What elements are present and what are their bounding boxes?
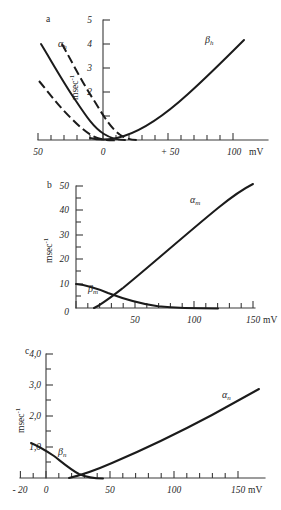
panel-c-label-alpha-n: αn bbox=[222, 389, 231, 402]
panel-b-y-ticklabel-20: 20 bbox=[60, 254, 70, 264]
panel-a-label-beta-h: βh bbox=[204, 34, 214, 47]
panel-a-x-ticklabel-neg50: 50 bbox=[33, 147, 43, 157]
panel-b-y-ticklabel-10: 10 bbox=[60, 279, 70, 289]
panel-c-x-ticklabel-50: 50 bbox=[105, 485, 115, 495]
panel-a-letter: a bbox=[46, 14, 51, 24]
panel-c-y-ticklabel-3: 3,0 bbox=[28, 380, 41, 390]
panel-a-x-ticklabel-50: + 50 bbox=[161, 147, 180, 157]
panel-b-y-unit-exp: -1 bbox=[42, 237, 50, 243]
panel-c-y-axis-title: msec-1 bbox=[14, 407, 26, 433]
panel-a: a 5 4 3 2 msec-1 bbox=[0, 0, 281, 168]
panel-a-curve-alpha-h bbox=[41, 44, 125, 140]
panel-b-x-ticklabel-150: 150 bbox=[246, 315, 261, 325]
panel-b-y-unit: msec bbox=[44, 243, 54, 263]
svg-text:msec-1: msec-1 bbox=[68, 74, 80, 100]
panel-b-x-ticklabel-100: 100 bbox=[187, 315, 202, 325]
panel-b-y-ticklabel-30: 30 bbox=[59, 230, 70, 240]
panel-c-x-ticklabel-neg20: - 20 bbox=[12, 485, 27, 495]
svg-text:msec-1: msec-1 bbox=[14, 407, 26, 433]
panel-c-x-unit: mV bbox=[248, 485, 262, 495]
panel-c-label-beta-n: βn bbox=[57, 446, 67, 459]
panel-a-curve-beta-h bbox=[90, 40, 244, 140]
panel-a-x-ticklabel-100: 100 bbox=[227, 147, 242, 157]
panel-b-label-beta-m: βm bbox=[87, 283, 98, 296]
panel-b-label-alpha-m: αm bbox=[190, 194, 200, 207]
panel-a-y-ticklabel-5: 5 bbox=[87, 15, 92, 25]
panel-b-y-axis-title: msec-1 bbox=[42, 237, 54, 263]
panel-c-curve-alpha-n bbox=[69, 389, 259, 478]
panel-b-letter: b bbox=[47, 180, 52, 190]
panel-a-y-unit: msec bbox=[70, 80, 80, 100]
panel-b-y-ticklabel-40: 40 bbox=[60, 205, 70, 215]
panel-b-y-ticklabel-50: 50 bbox=[60, 181, 70, 191]
panel-a-y-ticklabel-3: 3 bbox=[86, 63, 92, 73]
panel-a-y-ticklabel-4: 4 bbox=[87, 39, 92, 49]
panel-c-x-ticks bbox=[20, 471, 238, 478]
panel-b: b 50 40 30 20 10 0 msec-1 bbox=[0, 168, 281, 338]
panel-c-y-unit-exp: -1 bbox=[14, 407, 22, 413]
panel-a-y-ticks bbox=[103, 20, 110, 116]
panel-c-y-ticks bbox=[46, 354, 53, 462]
panel-b-y-ticks bbox=[76, 186, 83, 296]
svg-text:msec-1: msec-1 bbox=[42, 237, 54, 263]
panel-c-x-ticklabel-150: 150 bbox=[231, 485, 246, 495]
panel-b-curve-alpha-m bbox=[94, 184, 253, 308]
panel-a-x-ticklabel-0: 0 bbox=[101, 147, 106, 157]
panel-c-x-ticklabel-0: 0 bbox=[44, 485, 49, 495]
panel-c-y-unit: msec bbox=[16, 413, 26, 433]
panel-a-y-unit-exp: -1 bbox=[68, 74, 76, 80]
panel-c-y-ticklabel-2: 2,0 bbox=[29, 411, 41, 421]
panel-c-curve-beta-n bbox=[31, 443, 103, 479]
panel-a-x-unit: mV bbox=[249, 147, 263, 157]
panel-c: c 4,0 3,0 2,0 1,0 msec-1 bbox=[0, 338, 281, 510]
panel-c-y-ticklabel-4: 4,0 bbox=[29, 349, 41, 359]
panel-c-x-ticklabel-100: 100 bbox=[167, 485, 182, 495]
panel-b-x-unit: mV bbox=[263, 315, 277, 325]
panel-a-y-axis-title: msec-1 bbox=[68, 74, 80, 100]
figure-container: a 5 4 3 2 msec-1 bbox=[0, 0, 281, 510]
panel-b-y-ticklabel-0: 0 bbox=[64, 307, 69, 317]
panel-a-label-alpha-h: αh bbox=[58, 38, 67, 51]
panel-b-x-ticklabel-50: 50 bbox=[130, 315, 140, 325]
